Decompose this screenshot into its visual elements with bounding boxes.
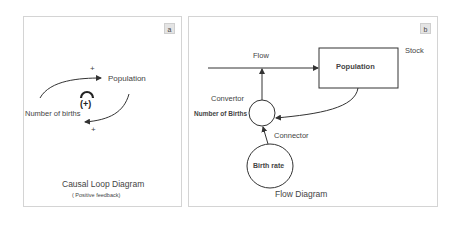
polarity-bottom: + bbox=[91, 125, 96, 134]
panel-b-title: Flow Diagram bbox=[275, 189, 327, 199]
convertor-circle bbox=[249, 100, 275, 126]
panel-a-subtitle: ( Positive feedback) bbox=[72, 192, 120, 198]
convertor-label: Convertor bbox=[211, 94, 244, 103]
flow-label: Flow bbox=[253, 51, 269, 60]
convertor-name: Number of Births bbox=[194, 110, 247, 117]
loop-sign: (+) bbox=[80, 99, 91, 109]
polarity-top: + bbox=[90, 64, 95, 73]
node-population: Population bbox=[108, 74, 146, 83]
node-number-of-births: Number of births bbox=[25, 109, 80, 118]
stock-label: Stock bbox=[405, 46, 424, 55]
panel-a-title: Causal Loop Diagram bbox=[62, 179, 144, 189]
birth-rate-label: Birth rate bbox=[253, 162, 284, 169]
birthrate-to-convertor-connector bbox=[263, 127, 268, 144]
causal-arrow-population-to-births bbox=[85, 94, 129, 122]
stock-to-convertor-connector bbox=[276, 88, 358, 118]
connector-label: Connector bbox=[274, 131, 309, 140]
loop-arc-icon bbox=[81, 92, 93, 98]
stock-box-label: Population bbox=[336, 62, 375, 71]
